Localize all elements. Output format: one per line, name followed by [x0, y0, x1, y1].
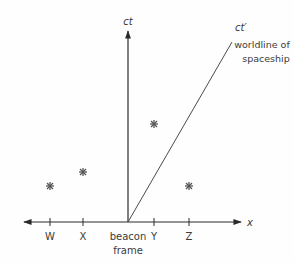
event-X-star-icon: [79, 168, 87, 176]
spaceship-worldline: [128, 42, 232, 222]
worldline-caption-line2: spaceship: [242, 53, 290, 64]
event-W-star-icon: [46, 182, 54, 190]
tick-label-Y: Y: [150, 231, 158, 242]
event-Z-star-icon: [185, 182, 193, 190]
tick-label-W: W: [45, 231, 55, 242]
x-axis-label: x: [246, 217, 253, 228]
origin-label-frame: frame: [113, 245, 143, 256]
tick-label-Z: Z: [186, 231, 193, 242]
worldline-caption-line1: worldline of: [234, 39, 290, 50]
ct-axis-label: ct: [123, 16, 133, 27]
spacetime-diagram: ct x W X Y Z beacon frame ct′ worldline …: [0, 0, 294, 263]
diagram-canvas: ct x W X Y Z beacon frame ct′ worldline …: [0, 0, 294, 263]
tick-label-X: X: [80, 231, 87, 242]
event-Y-star-icon: [150, 120, 158, 128]
ct-prime-label: ct′: [235, 22, 247, 33]
origin-label-beacon: beacon: [110, 231, 147, 242]
